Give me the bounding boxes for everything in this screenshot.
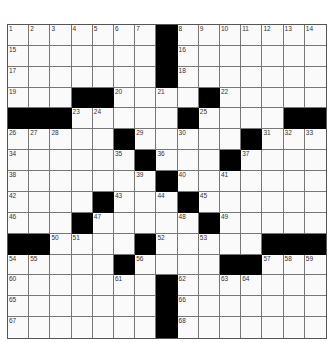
grid-cell[interactable] bbox=[241, 234, 262, 255]
grid-cell[interactable] bbox=[284, 67, 305, 88]
grid-cell[interactable] bbox=[305, 150, 326, 171]
grid-cell[interactable] bbox=[114, 108, 135, 129]
grid-cell[interactable] bbox=[29, 171, 50, 192]
grid-cell[interactable]: 64 bbox=[241, 275, 262, 296]
grid-cell[interactable]: 39 bbox=[135, 171, 156, 192]
grid-cell[interactable] bbox=[241, 192, 262, 213]
grid-cell[interactable] bbox=[29, 67, 50, 88]
grid-cell[interactable]: 30 bbox=[178, 129, 199, 150]
grid-cell[interactable] bbox=[199, 67, 220, 88]
grid-cell[interactable] bbox=[305, 171, 326, 192]
grid-cell[interactable]: 33 bbox=[305, 129, 326, 150]
grid-cell[interactable]: 48 bbox=[178, 213, 199, 234]
grid-cell[interactable] bbox=[50, 150, 71, 171]
grid-cell[interactable]: 56 bbox=[135, 255, 156, 276]
grid-cell[interactable] bbox=[72, 192, 93, 213]
grid-cell[interactable] bbox=[93, 67, 114, 88]
grid-cell[interactable] bbox=[156, 255, 177, 276]
grid-cell[interactable] bbox=[241, 88, 262, 109]
grid-cell[interactable] bbox=[93, 150, 114, 171]
grid-cell[interactable]: 15 bbox=[8, 46, 29, 67]
grid-cell[interactable] bbox=[93, 171, 114, 192]
grid-cell[interactable]: 7 bbox=[135, 25, 156, 46]
grid-cell[interactable] bbox=[262, 150, 283, 171]
grid-cell[interactable] bbox=[93, 234, 114, 255]
grid-cell[interactable]: 44 bbox=[156, 192, 177, 213]
grid-cell[interactable]: 25 bbox=[199, 108, 220, 129]
grid-cell[interactable] bbox=[199, 129, 220, 150]
grid-cell[interactable] bbox=[305, 46, 326, 67]
grid-cell[interactable] bbox=[93, 129, 114, 150]
grid-cell[interactable]: 28 bbox=[50, 129, 71, 150]
grid-cell[interactable] bbox=[262, 46, 283, 67]
grid-cell[interactable]: 17 bbox=[8, 67, 29, 88]
grid-cell[interactable] bbox=[156, 129, 177, 150]
grid-cell[interactable] bbox=[135, 317, 156, 338]
grid-cell[interactable]: 59 bbox=[305, 255, 326, 276]
grid-cell[interactable] bbox=[72, 150, 93, 171]
grid-cell[interactable] bbox=[114, 317, 135, 338]
grid-cell[interactable]: 62 bbox=[178, 275, 199, 296]
grid-cell[interactable] bbox=[29, 192, 50, 213]
grid-cell[interactable] bbox=[220, 108, 241, 129]
grid-cell[interactable] bbox=[262, 171, 283, 192]
grid-cell[interactable] bbox=[305, 192, 326, 213]
grid-cell[interactable] bbox=[29, 317, 50, 338]
grid-cell[interactable] bbox=[220, 67, 241, 88]
grid-cell[interactable] bbox=[114, 234, 135, 255]
grid-cell[interactable]: 12 bbox=[262, 25, 283, 46]
grid-cell[interactable] bbox=[199, 171, 220, 192]
grid-cell[interactable] bbox=[135, 213, 156, 234]
grid-cell[interactable] bbox=[72, 67, 93, 88]
grid-cell[interactable] bbox=[199, 275, 220, 296]
grid-cell[interactable] bbox=[220, 296, 241, 317]
grid-cell[interactable] bbox=[178, 150, 199, 171]
grid-cell[interactable]: 6 bbox=[114, 25, 135, 46]
grid-cell[interactable] bbox=[220, 192, 241, 213]
grid-cell[interactable]: 46 bbox=[8, 213, 29, 234]
grid-cell[interactable] bbox=[199, 46, 220, 67]
grid-cell[interactable]: 43 bbox=[114, 192, 135, 213]
grid-cell[interactable] bbox=[72, 317, 93, 338]
grid-cell[interactable]: 16 bbox=[178, 46, 199, 67]
grid-cell[interactable] bbox=[50, 275, 71, 296]
grid-cell[interactable]: 23 bbox=[72, 108, 93, 129]
grid-cell[interactable] bbox=[284, 275, 305, 296]
grid-cell[interactable] bbox=[178, 255, 199, 276]
grid-cell[interactable] bbox=[284, 317, 305, 338]
grid-cell[interactable] bbox=[114, 67, 135, 88]
grid-cell[interactable]: 58 bbox=[284, 255, 305, 276]
grid-cell[interactable] bbox=[50, 46, 71, 67]
grid-cell[interactable] bbox=[135, 275, 156, 296]
grid-cell[interactable]: 4 bbox=[72, 25, 93, 46]
grid-cell[interactable] bbox=[305, 67, 326, 88]
grid-cell[interactable] bbox=[284, 296, 305, 317]
grid-cell[interactable]: 68 bbox=[178, 317, 199, 338]
grid-cell[interactable] bbox=[284, 88, 305, 109]
grid-cell[interactable] bbox=[241, 296, 262, 317]
grid-cell[interactable]: 34 bbox=[8, 150, 29, 171]
grid-cell[interactable]: 63 bbox=[220, 275, 241, 296]
grid-cell[interactable] bbox=[199, 150, 220, 171]
grid-cell[interactable] bbox=[50, 213, 71, 234]
grid-cell[interactable]: 19 bbox=[8, 88, 29, 109]
grid-cell[interactable]: 5 bbox=[93, 25, 114, 46]
grid-cell[interactable]: 54 bbox=[8, 255, 29, 276]
grid-cell[interactable] bbox=[93, 275, 114, 296]
grid-cell[interactable]: 10 bbox=[220, 25, 241, 46]
grid-cell[interactable]: 26 bbox=[8, 129, 29, 150]
grid-cell[interactable] bbox=[305, 88, 326, 109]
grid-cell[interactable] bbox=[72, 129, 93, 150]
grid-cell[interactable] bbox=[305, 296, 326, 317]
grid-cell[interactable] bbox=[284, 192, 305, 213]
grid-cell[interactable] bbox=[50, 171, 71, 192]
grid-cell[interactable]: 67 bbox=[8, 317, 29, 338]
grid-cell[interactable] bbox=[262, 108, 283, 129]
grid-cell[interactable]: 20 bbox=[114, 88, 135, 109]
grid-cell[interactable]: 65 bbox=[8, 296, 29, 317]
grid-cell[interactable] bbox=[29, 213, 50, 234]
grid-cell[interactable] bbox=[135, 46, 156, 67]
grid-cell[interactable] bbox=[72, 296, 93, 317]
grid-cell[interactable] bbox=[262, 192, 283, 213]
grid-cell[interactable] bbox=[305, 213, 326, 234]
